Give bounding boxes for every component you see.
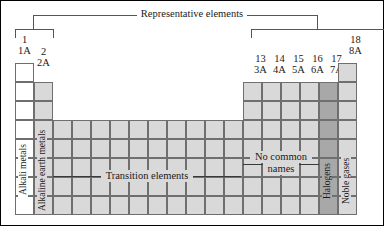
group-letter-2A: 2A xyxy=(34,57,53,68)
cell-g5-r4 xyxy=(91,120,110,139)
cell-g17-r4 xyxy=(319,120,338,139)
cell-g14-r7 xyxy=(262,177,281,196)
cell-g5-r5 xyxy=(91,139,110,158)
cell-g16-r2 xyxy=(300,82,319,101)
cell-g12-r8 xyxy=(224,196,243,215)
caption-alkali-metals-text: Alkali metals xyxy=(18,142,28,197)
cell-g15-r4 xyxy=(281,120,300,139)
group-label-16: 16 6A xyxy=(308,53,327,75)
cell-g11-r8 xyxy=(205,196,224,215)
caption-alkaline-earth-metals: Alkaline earth metals xyxy=(37,128,47,213)
cell-g13-r4 xyxy=(243,120,262,139)
cell-g1-r4 xyxy=(15,120,34,139)
cell-g14-r2 xyxy=(262,82,281,101)
cell-g13-r2 xyxy=(243,82,262,101)
cell-g1-r2 xyxy=(15,82,34,101)
group-label-15: 15 5A xyxy=(289,53,308,75)
cell-g1-r8 xyxy=(15,196,34,215)
cell-g6-r4 xyxy=(110,120,129,139)
caption-noble-gases: Noble gases xyxy=(341,156,351,206)
cell-g13-r3 xyxy=(243,101,262,120)
cell-g7-r4 xyxy=(129,120,148,139)
group-number-18: 18 xyxy=(346,34,365,45)
cell-g18-r4 xyxy=(338,120,357,139)
right-subbracket-bar xyxy=(251,29,384,30)
cell-g8-r5 xyxy=(148,139,167,158)
cell-g11-r5 xyxy=(205,139,224,158)
caption-alkaline-earth-metals-text: Alkaline earth metals xyxy=(37,128,47,213)
cell-g3-r5 xyxy=(53,139,72,158)
cell-g1-r3 xyxy=(15,101,34,120)
cell-g3-r8 xyxy=(53,196,72,215)
right-subbracket-tick-start xyxy=(251,29,252,38)
representative-bracket-stem-right xyxy=(317,15,318,29)
cell-g7-r5 xyxy=(129,139,148,158)
left-subbracket-tick-end xyxy=(53,29,54,38)
group-label-14: 14 4A xyxy=(270,53,289,75)
cell-g18-r3 xyxy=(338,101,357,120)
cell-g17-r3 xyxy=(319,101,338,120)
cell-g14-r3 xyxy=(262,101,281,120)
group-number-14: 14 xyxy=(270,53,289,64)
group-letter-8A: 8A xyxy=(346,45,365,56)
cell-g1-r1 xyxy=(15,63,34,82)
cell-g9-r4 xyxy=(167,120,186,139)
cell-g7-r8 xyxy=(129,196,148,215)
group-label-13: 13 3A xyxy=(251,53,270,75)
cell-g4-r8 xyxy=(72,196,91,215)
cell-g11-r4 xyxy=(205,120,224,139)
cell-g9-r5 xyxy=(167,139,186,158)
group-letter-4A: 4A xyxy=(270,64,289,75)
left-subbracket-bar xyxy=(15,29,53,30)
representative-elements-label: Representative elements xyxy=(1,8,383,19)
cell-g18-r2 xyxy=(338,82,357,101)
cell-g6-r8 xyxy=(110,196,129,215)
label-transition-elements-text: Transition elements xyxy=(101,170,194,182)
cell-g17-r2 xyxy=(319,82,338,101)
cell-g14-r8 xyxy=(262,196,281,215)
cell-g9-r8 xyxy=(167,196,186,215)
cell-g8-r8 xyxy=(148,196,167,215)
cell-g12-r4 xyxy=(224,120,243,139)
cell-g13-r7 xyxy=(243,177,262,196)
cell-g2-r2 xyxy=(34,82,53,101)
cell-g16-r4 xyxy=(300,120,319,139)
cell-g15-r3 xyxy=(281,101,300,120)
group-number-13: 13 xyxy=(251,53,270,64)
cell-g10-r8 xyxy=(186,196,205,215)
representative-bracket-stem-left xyxy=(33,15,34,29)
group-letter-3A: 3A xyxy=(251,64,270,75)
cell-g6-r5 xyxy=(110,139,129,158)
group-number-16: 16 xyxy=(308,53,327,64)
group-number-2: 2 xyxy=(34,46,53,57)
cell-g4-r5 xyxy=(72,139,91,158)
cell-g14-r4 xyxy=(262,120,281,139)
cell-g15-r7 xyxy=(281,177,300,196)
caption-halogens: Halogens xyxy=(322,161,332,201)
cell-g4-r4 xyxy=(72,120,91,139)
cell-g5-r8 xyxy=(91,196,110,215)
group-letter-1A: 1A xyxy=(15,45,34,56)
cell-g17-r5 xyxy=(319,139,338,158)
caption-alkali-metals: Alkali metals xyxy=(18,142,28,197)
cell-g10-r5 xyxy=(186,139,205,158)
caption-noble-gases-text: Noble gases xyxy=(341,156,351,206)
cell-g13-r8 xyxy=(243,196,262,215)
group-label-2: 2 2A xyxy=(34,46,53,68)
cell-g10-r4 xyxy=(186,120,205,139)
cell-g16-r8 xyxy=(300,196,319,215)
group-letter-6A: 6A xyxy=(308,64,327,75)
cell-g15-r8 xyxy=(281,196,300,215)
group-letter-5A: 5A xyxy=(289,64,308,75)
group-label-1: 1 1A xyxy=(15,34,34,56)
cell-g8-r4 xyxy=(148,120,167,139)
cell-g18-r1 xyxy=(338,63,357,82)
periodic-table-figure: Representative elements 1 1A 2 2A 13 3A … xyxy=(0,0,384,226)
cell-g15-r2 xyxy=(281,82,300,101)
representative-elements-text: Representative elements xyxy=(137,8,247,19)
caption-halogens-text: Halogens xyxy=(322,161,332,201)
label-no-common-names-line2: names xyxy=(263,163,300,175)
label-no-common-names-line1: No common xyxy=(250,151,312,163)
label-transition-elements: Transition elements xyxy=(53,170,241,182)
label-no-common-names: No common names xyxy=(241,151,321,175)
